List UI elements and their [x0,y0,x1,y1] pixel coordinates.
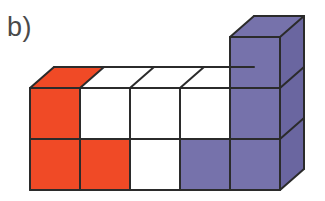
figure-root: b) [0,0,325,201]
cube-c1-r2 [30,88,80,139]
cube-c2-r2 [80,88,130,139]
cube-c5-r3 [230,37,280,88]
cube-c2-r1 [80,139,130,190]
cube-c1-r1 [30,139,80,190]
cube-c3-r2 [130,88,180,139]
cube-c5-r2 [230,88,280,139]
cube-c4-r2 [180,88,230,139]
cube-fill-layer [30,16,304,190]
cube-c4-r1 [180,139,230,190]
cube-c5-r1 [230,139,280,190]
cube-c3-r1 [130,139,180,190]
cube-stack-drawing [0,0,325,201]
